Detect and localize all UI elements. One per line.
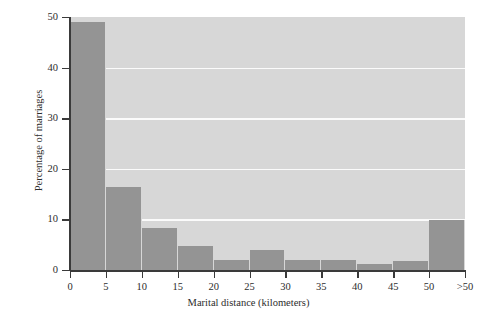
x-axis-title: Marital distance (kilometers) xyxy=(0,297,497,308)
x-tick-mark-30 xyxy=(285,270,286,278)
bar-25-30 xyxy=(250,250,286,270)
x-tick-mark-40 xyxy=(357,270,358,278)
y-axis-line xyxy=(69,17,71,271)
x-tick-mark->50 xyxy=(465,270,466,278)
x-tick-label->50: >50 xyxy=(445,281,485,293)
x-tick-label-25: 25 xyxy=(230,281,270,293)
x-tick-mark-0 xyxy=(70,270,71,278)
y-tick-mark-0 xyxy=(62,270,70,271)
x-tick-label-5: 5 xyxy=(86,281,126,293)
bar-series xyxy=(70,17,465,270)
y-tick-mark-20 xyxy=(62,169,70,170)
x-tick-mark-45 xyxy=(393,270,394,278)
bar-5-10 xyxy=(106,187,142,270)
y-tick-mark-50 xyxy=(62,17,70,18)
bar-0-5 xyxy=(70,22,106,270)
x-tick-mark-15 xyxy=(178,270,179,278)
x-tick-label-45: 45 xyxy=(373,281,413,293)
plot-area xyxy=(70,17,465,270)
bar-35-40 xyxy=(321,260,357,270)
y-tick-mark-40 xyxy=(62,68,70,69)
x-tick-label-15: 15 xyxy=(158,281,198,293)
y-tick-mark-10 xyxy=(62,219,70,220)
bar-15-20 xyxy=(178,246,214,270)
bar-45-50 xyxy=(393,261,429,270)
x-tick-label-10: 10 xyxy=(122,281,162,293)
histogram-figure: 01020304050 05101520253035404550>50 Mari… xyxy=(0,0,497,328)
bar-10-15 xyxy=(142,228,178,270)
x-tick-mark-5 xyxy=(106,270,107,278)
y-tick-label-0: 0 xyxy=(18,265,58,275)
x-tick-label-50: 50 xyxy=(409,281,449,293)
x-axis-line xyxy=(70,270,465,272)
bar-30-35 xyxy=(285,260,321,270)
x-tick-label-0: 0 xyxy=(50,281,90,293)
bar->50 xyxy=(429,220,465,270)
x-tick-label-30: 30 xyxy=(265,281,305,293)
x-tick-label-40: 40 xyxy=(337,281,377,293)
x-tick-mark-35 xyxy=(321,270,322,278)
x-tick-mark-10 xyxy=(142,270,143,278)
bar-20-25 xyxy=(214,260,250,270)
y-tick-label-50: 50 xyxy=(18,12,58,22)
x-tick-label-20: 20 xyxy=(194,281,234,293)
x-tick-mark-25 xyxy=(250,270,251,278)
y-axis-title: Percentage of marriages xyxy=(33,31,44,251)
y-tick-mark-30 xyxy=(62,118,70,119)
x-tick-mark-20 xyxy=(214,270,215,278)
x-tick-mark-50 xyxy=(429,270,430,278)
x-tick-label-35: 35 xyxy=(301,281,341,293)
